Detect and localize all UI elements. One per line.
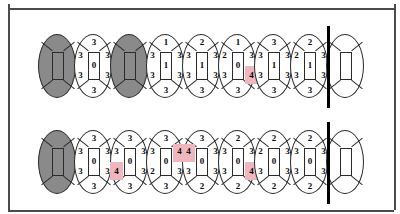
pocket-depth-center[interactable]: 0 bbox=[232, 61, 244, 70]
pocket-depth-top[interactable]: 2 bbox=[193, 38, 211, 47]
tooth-l2[interactable]: 3333330 bbox=[74, 122, 114, 202]
pocket-depth-center[interactable]: 1 bbox=[268, 61, 280, 70]
pocket-depth-lt[interactable]: 3 bbox=[75, 147, 86, 156]
lower-arch-midline-divider bbox=[327, 122, 330, 204]
pocket-depth-lt[interactable]: 3 bbox=[111, 147, 122, 156]
pocket-depth-bottom[interactable]: 3 bbox=[85, 182, 103, 191]
pocket-depth-center[interactable]: 1 bbox=[160, 61, 172, 70]
pocket-depth-bottom[interactable]: 2 bbox=[265, 182, 283, 191]
pocket-depth-top[interactable]: 3 bbox=[157, 134, 175, 143]
tooth-l6[interactable]: 2233340 bbox=[218, 122, 258, 202]
page-border-top bbox=[8, 8, 394, 10]
pocket-depth-lb[interactable]: 2 bbox=[147, 167, 158, 176]
tooth-core-box bbox=[340, 148, 352, 176]
pocket-depth-lt[interactable]: 4 bbox=[183, 147, 194, 156]
page-border-right bbox=[394, 4, 396, 210]
tooth-u3[interactable] bbox=[110, 26, 150, 106]
pocket-depth-top[interactable]: 1 bbox=[229, 38, 247, 47]
pocket-depth-bottom[interactable]: 2 bbox=[193, 182, 211, 191]
tooth-u4[interactable]: 1333331 bbox=[146, 26, 186, 106]
pocket-depth-top[interactable]: 2 bbox=[265, 134, 283, 143]
tooth-u8[interactable]: 2323331 bbox=[290, 26, 330, 106]
pocket-depth-lt[interactable]: 3 bbox=[219, 147, 230, 156]
pocket-depth-top[interactable]: 2 bbox=[301, 38, 319, 47]
tooth-u9[interactable] bbox=[326, 26, 366, 106]
pocket-depth-lb[interactable]: 3 bbox=[255, 71, 266, 80]
pocket-depth-bottom[interactable]: 3 bbox=[193, 86, 211, 95]
pocket-depth-top[interactable]: 1 bbox=[157, 38, 175, 47]
pocket-depth-lt[interactable]: 2 bbox=[291, 51, 302, 60]
pocket-depth-center[interactable]: 0 bbox=[160, 157, 172, 166]
tooth-l7[interactable]: 2223330 bbox=[254, 122, 294, 202]
pocket-depth-lb[interactable]: 3 bbox=[291, 71, 302, 80]
pocket-depth-lb[interactable]: 3 bbox=[75, 167, 86, 176]
page-border-left bbox=[8, 4, 10, 210]
pocket-depth-top[interactable]: 3 bbox=[121, 134, 139, 143]
pocket-depth-center[interactable]: 0 bbox=[88, 157, 100, 166]
page-border-bottom bbox=[8, 210, 394, 212]
tooth-l1[interactable] bbox=[38, 122, 78, 202]
pocket-depth-lt[interactable]: 3 bbox=[147, 147, 158, 156]
pocket-depth-top[interactable]: 3 bbox=[193, 134, 211, 143]
pocket-depth-lb[interactable]: 3 bbox=[219, 167, 230, 176]
tooth-u1[interactable] bbox=[38, 26, 78, 106]
pocket-depth-lt[interactable]: 2 bbox=[219, 51, 230, 60]
pocket-depth-bottom[interactable]: 3 bbox=[121, 182, 139, 191]
pocket-depth-lb[interactable]: 3 bbox=[183, 167, 194, 176]
pocket-depth-lt[interactable]: 3 bbox=[255, 51, 266, 60]
pocket-depth-lt[interactable]: 3 bbox=[291, 147, 302, 156]
pocket-depth-bottom[interactable]: 3 bbox=[265, 86, 283, 95]
tooth-l5[interactable]: 3243330 bbox=[182, 122, 222, 202]
pocket-depth-top[interactable]: 3 bbox=[85, 134, 103, 143]
tooth-core-box bbox=[340, 52, 352, 80]
pocket-depth-bottom[interactable]: 3 bbox=[301, 86, 319, 95]
tooth-l4[interactable]: 3332430 bbox=[146, 122, 186, 202]
pocket-depth-bottom[interactable]: 3 bbox=[157, 86, 175, 95]
pocket-depth-top[interactable]: 2 bbox=[229, 134, 247, 143]
pocket-depth-top[interactable]: 2 bbox=[301, 134, 319, 143]
tooth-u6[interactable]: 1323340 bbox=[218, 26, 258, 106]
pocket-depth-center[interactable]: 0 bbox=[232, 157, 244, 166]
tooth-core-box bbox=[52, 148, 64, 176]
pocket-depth-lb[interactable]: 3 bbox=[183, 71, 194, 80]
pocket-depth-center[interactable]: 1 bbox=[304, 61, 316, 70]
pocket-depth-top[interactable]: 3 bbox=[265, 38, 283, 47]
tooth-core-box bbox=[124, 52, 136, 80]
pocket-depth-bottom[interactable]: 3 bbox=[85, 86, 103, 95]
pocket-depth-lt[interactable]: 3 bbox=[147, 51, 158, 60]
pocket-depth-center[interactable]: 0 bbox=[196, 157, 208, 166]
pocket-depth-lt[interactable]: 3 bbox=[183, 51, 194, 60]
pocket-depth-lb[interactable]: 3 bbox=[147, 71, 158, 80]
pocket-depth-lb[interactable]: 3 bbox=[219, 71, 230, 80]
pocket-depth-center[interactable]: 0 bbox=[268, 157, 280, 166]
pocket-depth-bottom[interactable]: 3 bbox=[229, 86, 247, 95]
tooth-l3[interactable]: 3334330 bbox=[110, 122, 150, 202]
pocket-depth-lb[interactable]: 4 bbox=[111, 167, 122, 176]
pocket-depth-lt[interactable]: 2 bbox=[255, 147, 266, 156]
pocket-depth-center[interactable]: 1 bbox=[196, 61, 208, 70]
pocket-depth-top[interactable]: 3 bbox=[85, 38, 103, 47]
pocket-depth-center[interactable]: 0 bbox=[88, 61, 100, 70]
periodontal-chart-sheet: 3333330133333123333311323340333333123233… bbox=[0, 0, 400, 214]
tooth-u5[interactable]: 2333331 bbox=[182, 26, 222, 106]
pocket-depth-bottom[interactable]: 3 bbox=[157, 182, 175, 191]
pocket-depth-bottom[interactable]: 2 bbox=[301, 182, 319, 191]
pocket-depth-center[interactable]: 0 bbox=[124, 157, 136, 166]
pocket-depth-lt[interactable]: 3 bbox=[75, 51, 86, 60]
tooth-core-box bbox=[52, 52, 64, 80]
pocket-depth-lb[interactable]: 3 bbox=[75, 71, 86, 80]
pocket-depth-center[interactable]: 0 bbox=[304, 157, 316, 166]
tooth-l9[interactable] bbox=[326, 122, 366, 202]
tooth-u7[interactable]: 3333331 bbox=[254, 26, 294, 106]
pocket-depth-lb[interactable]: 3 bbox=[291, 167, 302, 176]
pocket-depth-bottom[interactable]: 2 bbox=[229, 182, 247, 191]
upper-arch-midline-divider bbox=[327, 26, 330, 108]
tooth-u2[interactable]: 3333330 bbox=[74, 26, 114, 106]
pocket-depth-lb[interactable]: 3 bbox=[255, 167, 266, 176]
tooth-l8[interactable]: 2233330 bbox=[290, 122, 330, 202]
